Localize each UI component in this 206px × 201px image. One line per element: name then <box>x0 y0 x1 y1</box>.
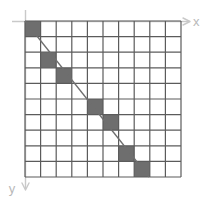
shaded-cell <box>87 99 103 115</box>
x-axis-label: x <box>193 14 200 29</box>
figure-canvas: x y <box>0 0 206 201</box>
y-axis-label: y <box>9 181 16 196</box>
gridlines-group <box>25 21 181 177</box>
shaded-cell <box>41 52 57 68</box>
y-axis: y <box>9 10 29 196</box>
rasterization-figure: x y <box>0 0 206 201</box>
